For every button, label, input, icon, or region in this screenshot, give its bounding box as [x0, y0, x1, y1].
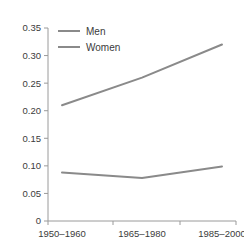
y-tick-label: 0.15	[23, 133, 42, 144]
y-tick-label: 0.05	[23, 188, 42, 199]
x-tick-label: 1965–1980	[118, 228, 166, 239]
y-tick-label: 0.10	[23, 160, 42, 171]
x-tick-label: 1950–1960	[38, 228, 86, 239]
axes	[48, 28, 236, 221]
series-line-men	[62, 45, 222, 106]
chart-canvas: 00.050.100.150.200.250.300.35 1950–19601…	[0, 0, 244, 250]
y-tick-marks	[44, 28, 48, 221]
legend-label-men: Men	[86, 26, 105, 37]
legend-label-women: Women	[86, 42, 120, 53]
x-tick-marks	[48, 221, 236, 225]
y-tick-labels: 00.050.100.150.200.250.300.35	[23, 22, 42, 226]
series-line-women	[62, 166, 222, 178]
y-tick-label: 0.25	[23, 78, 42, 89]
y-tick-label: 0.30	[23, 50, 42, 61]
y-tick-label: 0.35	[23, 22, 42, 33]
x-tick-label: 1985–2000	[198, 228, 244, 239]
y-tick-label: 0.20	[23, 105, 42, 116]
data-series-group	[62, 45, 222, 178]
y-tick-label: 0	[36, 215, 41, 226]
x-tick-labels: 1950–19601965–19801985–2000	[38, 228, 244, 239]
chart-legend: MenWomen	[58, 26, 120, 53]
line-chart: 00.050.100.150.200.250.300.35 1950–19601…	[0, 0, 244, 250]
